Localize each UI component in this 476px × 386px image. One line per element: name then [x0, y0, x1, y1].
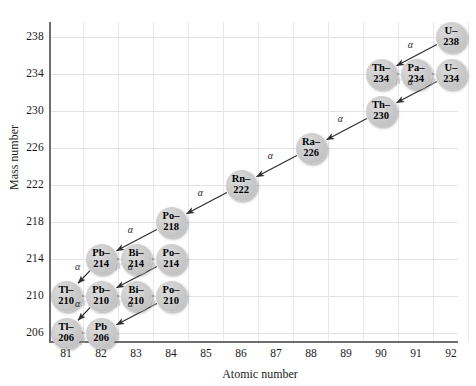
decay-type-label-beta: β — [81, 298, 85, 308]
nuclide-mass-number: 214 — [93, 259, 109, 270]
nuclide-mass-number: 230 — [373, 111, 389, 122]
nuclide-mass-number: 206 — [93, 333, 109, 344]
nuclide-node-pb-214[interactable]: Pb–214 — [86, 244, 117, 275]
decay-type-label-alpha: α — [408, 76, 413, 87]
nuclide-mass-number: 226 — [303, 148, 319, 159]
nuclide-mass-number: 206 — [58, 333, 74, 344]
nuclide-mass-number: 222 — [233, 185, 249, 196]
decay-arrow-alpha-th-230-to-ra-226 — [326, 118, 366, 139]
nuclide-node-th-234[interactable]: Th–234 — [366, 59, 397, 90]
decay-type-label-alpha: α — [408, 39, 413, 50]
nuclide-node-ra-226[interactable]: Ra–226 — [296, 133, 327, 164]
decay-arrow-alpha-pb-214-to-tl-210 — [78, 271, 90, 284]
nuclide-node-po-210[interactable]: Po–210 — [156, 281, 187, 312]
nuclide-mass-number: 238 — [443, 37, 459, 48]
nuclide-node-pb-210[interactable]: Pb–210 — [86, 281, 117, 312]
decay-type-label-beta: β — [81, 335, 85, 345]
nuclide-mass-number: 210 — [93, 296, 109, 307]
decay-type-label-beta: β — [151, 298, 155, 308]
nuclide-node-po-214[interactable]: Po–214 — [156, 244, 187, 275]
nuclide-mass-number: 210 — [58, 296, 74, 307]
decay-type-label-alpha: α — [128, 261, 133, 272]
nuclide-node-rn-222[interactable]: Rn–222 — [226, 170, 257, 201]
decay-type-label-beta: β — [116, 298, 120, 308]
decay-type-label-beta: β — [116, 261, 120, 271]
decay-type-label-alpha: α — [75, 261, 80, 272]
nuclide-mass-number: 234 — [443, 74, 459, 85]
nuclide-node-pa-234[interactable]: Pa–234 — [401, 59, 432, 90]
decay-chain-diagram: 206210214218222226230234238 818283848586… — [0, 0, 476, 386]
nuclide-node-bi-210[interactable]: Bi–210 — [121, 281, 152, 312]
decay-type-label-beta: β — [151, 261, 155, 271]
decay-arrow-alpha-ra-226-to-rn-222 — [256, 155, 296, 176]
decay-type-label-alpha: α — [338, 113, 343, 124]
decay-type-label-beta: β — [396, 76, 400, 86]
decay-type-label-alpha: α — [128, 298, 133, 309]
nuclide-node-pb-206[interactable]: Pb206 — [86, 318, 117, 349]
nuclide-node-u-238[interactable]: U–238 — [436, 22, 467, 53]
nuclide-mass-number: 214 — [163, 259, 179, 270]
nuclide-mass-number: 234 — [373, 74, 389, 85]
nuclide-node-bi-214[interactable]: Bi–214 — [121, 244, 152, 275]
nuclide-node-u-234[interactable]: U–234 — [436, 59, 467, 90]
decay-type-label-alpha: α — [198, 187, 203, 198]
decay-arrow-alpha-rn-222-to-po-218 — [186, 192, 226, 213]
decay-type-label-alpha: α — [128, 224, 133, 235]
decay-type-label-beta: β — [431, 76, 435, 86]
nuclide-mass-number: 210 — [163, 296, 179, 307]
nuclide-mass-number: 218 — [163, 222, 179, 233]
decay-arrow-alpha-pb-210-to-tl-206 — [78, 308, 90, 321]
nuclide-node-po-218[interactable]: Po–218 — [156, 207, 187, 238]
nuclide-node-th-230[interactable]: Th–230 — [366, 96, 397, 127]
decay-type-label-alpha: α — [268, 150, 273, 161]
nuclide-node-tl-206[interactable]: Tl–206 — [51, 318, 82, 349]
decay-type-label-alpha: α — [75, 298, 80, 309]
